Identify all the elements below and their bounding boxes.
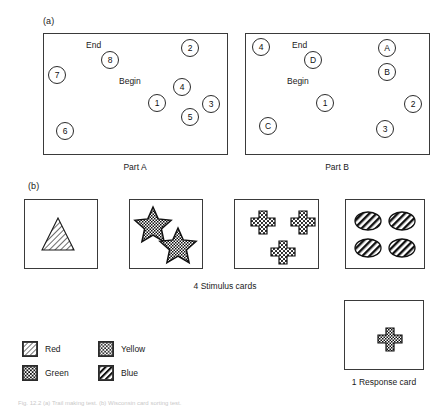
ellipse-icon-2 [389, 212, 415, 230]
node-label: D [310, 56, 316, 65]
legend-item-red: Red [22, 341, 61, 357]
part-a-node-1[interactable]: 1 [148, 94, 166, 112]
node-label: 4 [259, 43, 264, 52]
legend-item-blue: Blue [98, 365, 138, 381]
part-a-node-2[interactable]: 2 [181, 39, 199, 57]
part-b-node-c[interactable]: C [259, 117, 277, 135]
response-card[interactable] [344, 300, 424, 370]
part-a-node-3[interactable]: 3 [202, 95, 220, 113]
legend-label-blue: Blue [121, 368, 138, 378]
ellipse-icon-1 [355, 212, 381, 230]
cross-icon-2 [291, 211, 315, 234]
part-b-caption: Part B [287, 162, 387, 172]
part-b-begin-label: Begin [287, 76, 309, 86]
node-label: A [384, 44, 390, 53]
node-label: 4 [180, 83, 185, 92]
legend-label-yellow: Yellow [121, 344, 145, 354]
node-label: 8 [108, 56, 113, 65]
stimulus-card-1[interactable] [24, 199, 98, 269]
part-a-node-4[interactable]: 4 [173, 78, 191, 96]
node-label: 1 [155, 99, 160, 108]
node-label: 3 [383, 125, 388, 134]
legend-label-red: Red [45, 344, 61, 354]
panel-b-label: (b) [28, 181, 39, 191]
node-label: 7 [55, 71, 60, 80]
figure-bottom-caption: Fig. 12.2 (a) Trail making test. (b) Wis… [18, 400, 430, 407]
part-b-node-3[interactable]: 3 [376, 120, 394, 138]
figure-root: (a) End Begin 78241356 Part A End Begin … [0, 0, 445, 408]
part-a-node-7[interactable]: 7 [48, 66, 66, 84]
part-b-node-b[interactable]: B [378, 63, 396, 81]
triangle-shape-group [25, 200, 97, 268]
ellipse-shape-group [346, 200, 424, 268]
cross-icon-1 [251, 211, 275, 234]
red-swatch-icon [22, 341, 38, 357]
node-label: B [384, 68, 390, 77]
part-b-node-4[interactable]: 4 [252, 38, 270, 56]
part-b-end-label: End [292, 40, 307, 50]
part-a-caption: Part A [85, 162, 185, 172]
part-b-box [245, 33, 430, 155]
triangle-icon [42, 218, 74, 250]
node-label: 1 [323, 99, 328, 108]
part-b-node-d[interactable]: D [304, 51, 322, 69]
node-label: 2 [188, 44, 193, 53]
star-shape-group [130, 200, 202, 268]
part-a-node-6[interactable]: 6 [56, 122, 74, 140]
part-b-node-a[interactable]: A [378, 39, 396, 57]
part-b-node-1[interactable]: 1 [316, 94, 334, 112]
cross-icon-3 [271, 241, 295, 264]
blue-swatch-icon [98, 365, 114, 381]
legend-item-green: Green [22, 365, 69, 381]
stimulus-card-2[interactable] [129, 199, 203, 269]
node-label: 6 [63, 127, 68, 136]
ellipse-icon-3 [355, 239, 381, 257]
legend-label-green: Green [45, 368, 69, 378]
response-card-caption: 1 Response card [334, 377, 434, 387]
stimulus-card-3[interactable] [234, 199, 319, 269]
node-label: 5 [188, 113, 193, 122]
legend-item-yellow: Yellow [98, 341, 145, 357]
panel-a-label: (a) [43, 16, 54, 26]
part-a-node-5[interactable]: 5 [181, 108, 199, 126]
part-a-begin-label: Begin [119, 76, 141, 86]
stimulus-card-4[interactable] [345, 199, 425, 269]
cross-icon-response [378, 328, 402, 351]
cross-shape-group [235, 200, 318, 268]
ellipse-icon-4 [389, 239, 415, 257]
node-label: C [265, 122, 271, 131]
green-swatch-icon [22, 365, 38, 381]
star-icon-1 [135, 207, 171, 242]
stimulus-cards-caption: 4 Stimulus cards [125, 281, 325, 291]
yellow-swatch-icon [98, 341, 114, 357]
part-b-node-2[interactable]: 2 [404, 95, 422, 113]
star-icon-2 [160, 228, 196, 263]
part-a-end-label: End [86, 40, 101, 50]
node-label: 3 [209, 100, 214, 109]
part-a-node-8[interactable]: 8 [101, 51, 119, 69]
response-cross-group [345, 301, 423, 369]
node-label: 2 [411, 100, 416, 109]
